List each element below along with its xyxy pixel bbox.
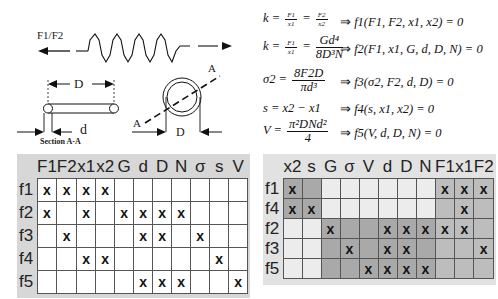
matrix-cell [359, 179, 378, 199]
matrix-cell [435, 199, 455, 219]
col-header: x1 [455, 156, 474, 179]
matrix-cell [229, 202, 248, 225]
matrix-cell [416, 179, 435, 199]
left-matrix-header: F1 F2 x1 x2 G d D N σ s V [19, 156, 248, 179]
matrix-cell: x [96, 179, 115, 202]
col-header: x2 [96, 156, 115, 179]
col-header: F2 [474, 156, 494, 179]
col-header: G [321, 156, 340, 179]
matrix-cell: x [153, 225, 172, 248]
matrix-cell [378, 179, 397, 199]
matrix-cell [115, 271, 134, 294]
spring-coil-icon [88, 34, 190, 62]
matrix-cell [340, 219, 359, 239]
matrix-cell: x [378, 239, 397, 259]
matrix-cell [172, 179, 191, 202]
matrix-cell: x [153, 202, 172, 225]
matrix-cell [340, 259, 359, 279]
matrix-cell [37, 248, 57, 271]
matrix-cell [191, 271, 210, 294]
col-header: D [397, 156, 416, 179]
section-label: Section A-A [40, 137, 81, 146]
matrix-cell [57, 202, 77, 225]
matrix-cell [340, 179, 359, 199]
matrix-cell [229, 179, 248, 202]
matrix-cell [210, 225, 229, 248]
right-matrix-header: x2 s G σ V d D N F1 x1 F2 [265, 156, 494, 179]
matrix-cell: x [77, 248, 96, 271]
matrix-cell [359, 219, 378, 239]
matrix-cell [229, 225, 248, 248]
col-header: G [115, 156, 134, 179]
matrix-cell: x [37, 179, 57, 202]
matrix-row: f3xxxx [19, 225, 248, 248]
matrix-cell [153, 179, 172, 202]
matrix-cell: x [302, 199, 321, 219]
matrix-cell [37, 271, 57, 294]
matrix-cell: x [77, 179, 96, 202]
matrix-row: f2xxxxxx [19, 202, 248, 225]
dim-d-label: d [80, 122, 87, 138]
matrix-cell [321, 179, 340, 199]
matrix-row: f1xxxx [19, 179, 248, 202]
matrix-cell [359, 239, 378, 259]
col-header: σ [191, 156, 210, 179]
matrix-cell: x [416, 259, 435, 279]
matrix-cell: x [134, 225, 153, 248]
matrix-cell: x [455, 219, 474, 239]
matrix-row: f1xxxx [265, 179, 494, 199]
matrix-cell: x [96, 248, 115, 271]
arrowhead-right-icon [222, 42, 232, 50]
matrix-cell: x [435, 179, 455, 199]
dim-D-label: D [74, 76, 83, 92]
matrix-cell [397, 179, 416, 199]
matrix-cell: x [378, 259, 397, 279]
matrix-cell: x [57, 179, 77, 202]
matrix-cell [77, 271, 96, 294]
matrix-cell [96, 271, 115, 294]
col-header: N [172, 156, 191, 179]
matrix-cell: x [191, 225, 210, 248]
dim-D-ring-label: D [176, 125, 185, 140]
matrix-cell [435, 259, 455, 279]
matrix-cell [340, 199, 359, 219]
matrix-row: f2xxxxxx [265, 219, 494, 239]
col-header: s [210, 156, 229, 179]
row-label: f1 [19, 179, 37, 202]
col-header: d [134, 156, 153, 179]
matrix-cell [191, 202, 210, 225]
matrix-cell: x [474, 239, 494, 259]
row-label: f4 [265, 199, 283, 219]
matrix-cell [191, 248, 210, 271]
matrix-cell: x [172, 202, 191, 225]
matrix-cell [378, 199, 397, 219]
matrix-cell [359, 199, 378, 219]
col-header: s [302, 156, 321, 179]
matrix-cell: x [37, 202, 57, 225]
matrix-cell [115, 179, 134, 202]
matrix-cell [435, 239, 455, 259]
matrix-cell: x [455, 179, 474, 199]
matrix-row: f3xxxx [265, 239, 494, 259]
matrix-cell [283, 219, 302, 239]
row-label: f2 [19, 202, 37, 225]
matrix-cell [229, 248, 248, 271]
matrix-cell: x [172, 271, 191, 294]
spring-diagram [0, 0, 250, 150]
col-header: x2 [283, 156, 302, 179]
arrowhead-left-icon [38, 47, 48, 55]
matrix-cell [191, 179, 210, 202]
matrix-cell: x [397, 259, 416, 279]
matrix-cell [321, 199, 340, 219]
matrix-cell [210, 179, 229, 202]
section-mark-a-top: A [208, 62, 216, 74]
matrix-cell: x [153, 271, 172, 294]
col-header: d [378, 156, 397, 179]
matrix-cell: x [397, 239, 416, 259]
right-incidence-matrix-reordered: x2 s G σ V d D N F1 x1 F2 f1xxxxf4xxxf2x… [265, 156, 494, 279]
col-header: F1 [435, 156, 455, 179]
col-header: x1 [77, 156, 96, 179]
matrix-cell: x [321, 219, 340, 239]
matrix-cell [172, 248, 191, 271]
matrix-cell [302, 179, 321, 199]
